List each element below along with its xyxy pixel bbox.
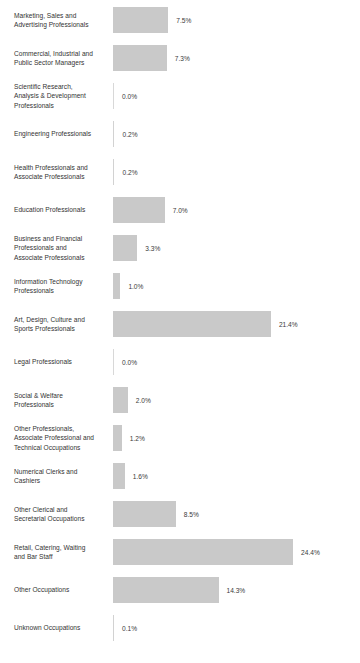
bar-value-label: 7.0% (173, 191, 188, 229)
bar-value-label: 0.2% (122, 115, 137, 153)
bar (113, 615, 114, 641)
category-label: Scientific Research, Analysis & Developm… (14, 77, 109, 115)
bar (113, 425, 122, 451)
bar-row: Scientific Research, Analysis & Developm… (0, 77, 360, 115)
bar (113, 159, 114, 185)
baseline-tick (113, 83, 114, 109)
bar (113, 45, 167, 71)
category-label: Other Clerical and Secretarial Occupatio… (14, 495, 109, 533)
bar-row: Other Occupations14.3% (0, 571, 360, 609)
bar-value-label: 24.4% (301, 533, 320, 571)
baseline-tick (113, 349, 114, 375)
category-label: Marketing, Sales and Advertising Profess… (14, 1, 109, 39)
bar (113, 273, 120, 299)
bar-value-label: 7.5% (176, 1, 191, 39)
horizontal-bar-chart: Marketing, Sales and Advertising Profess… (0, 0, 360, 663)
bar-value-label: 1.6% (133, 457, 148, 495)
bar (113, 577, 219, 603)
category-label: Social & Welfare Professionals (14, 381, 109, 419)
category-label: Engineering Professionals (14, 115, 109, 153)
bar (113, 121, 114, 147)
bar-value-label: 1.0% (128, 267, 143, 305)
bar (113, 7, 168, 33)
category-label: Legal Professionals (14, 343, 109, 381)
bar (113, 539, 293, 565)
bar (113, 235, 137, 261)
bar-row: Legal Professionals0.0% (0, 343, 360, 381)
bar-row: Health Professionals and Associate Profe… (0, 153, 360, 191)
bar-row: Art, Design, Culture and Sports Professi… (0, 305, 360, 343)
bar-row: Marketing, Sales and Advertising Profess… (0, 1, 360, 39)
bar-value-label: 0.2% (122, 153, 137, 191)
category-label: Unknown Occupations (14, 609, 109, 647)
bar-value-label: 3.3% (145, 229, 160, 267)
category-label: Other Occupations (14, 571, 109, 609)
bar-row: Unknown Occupations0.1% (0, 609, 360, 647)
bar (113, 387, 128, 413)
bar-value-label: 8.5% (184, 495, 199, 533)
category-label: Commercial, Industrial and Public Sector… (14, 39, 109, 77)
bar-value-label: 1.2% (130, 419, 145, 457)
bar-row: Education Professionals7.0% (0, 191, 360, 229)
bar-row: Social & Welfare Professionals2.0% (0, 381, 360, 419)
category-label: Education Professionals (14, 191, 109, 229)
bar-value-label: 2.0% (136, 381, 151, 419)
bar-row: Engineering Professionals0.2% (0, 115, 360, 153)
bar-row: Information Technology Professionals1.0% (0, 267, 360, 305)
bar-value-label: 7.3% (175, 39, 190, 77)
category-label: Information Technology Professionals (14, 267, 109, 305)
bar-value-label: 0.1% (122, 609, 137, 647)
bar-row: Business and Financial Professionals and… (0, 229, 360, 267)
bar-row: Retail, Catering, Waiting and Bar Staff2… (0, 533, 360, 571)
bar-row: Commercial, Industrial and Public Sector… (0, 39, 360, 77)
bar-row: Other Professionals, Associate Professio… (0, 419, 360, 457)
bar-value-label: 21.4% (279, 305, 298, 343)
category-label: Art, Design, Culture and Sports Professi… (14, 305, 109, 343)
bar (113, 501, 176, 527)
bar-row: Numerical Clerks and Cashiers1.6% (0, 457, 360, 495)
bar-row: Other Clerical and Secretarial Occupatio… (0, 495, 360, 533)
bar (113, 197, 165, 223)
category-label: Retail, Catering, Waiting and Bar Staff (14, 533, 109, 571)
category-label: Health Professionals and Associate Profe… (14, 153, 109, 191)
bar-value-label: 0.0% (122, 77, 137, 115)
bar-value-label: 0.0% (122, 343, 137, 381)
bar-value-label: 14.3% (227, 571, 246, 609)
bar (113, 311, 271, 337)
category-label: Other Professionals, Associate Professio… (14, 419, 109, 457)
category-label: Numerical Clerks and Cashiers (14, 457, 109, 495)
category-label: Business and Financial Professionals and… (14, 229, 109, 267)
bar (113, 463, 125, 489)
